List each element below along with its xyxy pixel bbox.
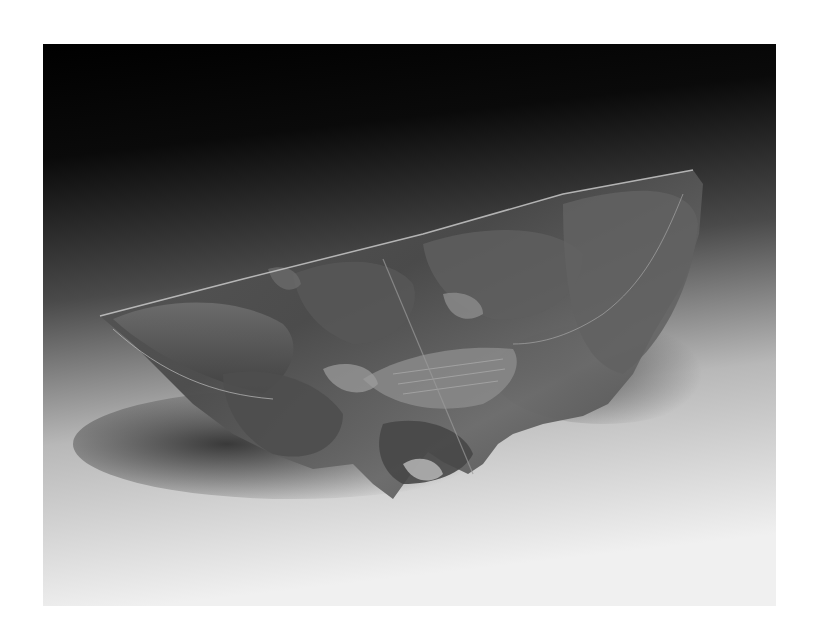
photo-canvas <box>43 44 776 606</box>
photograph <box>43 44 776 606</box>
